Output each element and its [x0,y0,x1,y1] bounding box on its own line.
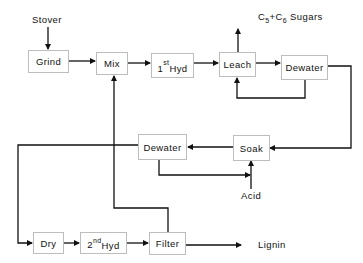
grind-node: Grind [28,50,69,73]
sugars-plus: +C [270,11,283,22]
soak-node: Soak [233,135,270,161]
filter-node: Filter [149,232,186,255]
flow-arrows [0,0,363,263]
stover-label: Stover [32,14,62,25]
dewater-node-2: Dewater [138,134,187,160]
first-hyd-node: 1stHyd [151,53,194,78]
mix-node: Mix [96,52,128,75]
sugars-label: C5+C6 Sugars [258,11,323,22]
dry-node: Dry [33,232,64,254]
sugars-sub6: 6 [283,17,287,24]
second-hyd-node: 2ndHyd [80,232,127,254]
sugars-text: Sugars [287,11,323,22]
leach-node: Leach [219,52,256,77]
lignin-label: Lignin [258,239,286,250]
hyd2-text: Hyd [102,240,120,251]
hyd2-sup: nd [93,237,102,244]
hyd1-text: Hyd [169,63,187,74]
dewater-node-1: Dewater [281,55,328,80]
acid-label: Acid [241,190,261,201]
sugars-sub5: 5 [265,17,269,24]
